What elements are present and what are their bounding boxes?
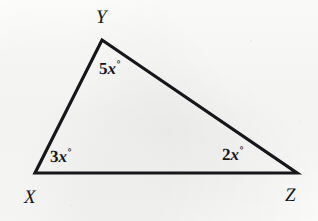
triangle-drawing: [0, 0, 318, 221]
degree-symbol-icon: °: [117, 59, 121, 70]
scan-speck: [250, 40, 252, 42]
vertex-label-z: Z: [285, 186, 296, 205]
geometry-figure: Y X Z 5x° 3x° 2x°: [0, 0, 318, 221]
angle-y-variable: x: [108, 59, 117, 78]
scan-speck: [160, 196, 161, 197]
degree-symbol-icon: °: [68, 147, 72, 158]
angle-z-coefficient: 2: [222, 145, 231, 164]
degree-symbol-icon: °: [240, 145, 244, 156]
scan-speck: [12, 60, 13, 61]
scan-speck: [70, 205, 72, 206]
angle-z-variable: x: [231, 145, 240, 164]
angle-label-z: 2x°: [222, 146, 244, 163]
angle-y-coefficient: 5: [99, 59, 108, 78]
angle-label-y: 5x°: [99, 60, 121, 77]
triangle-xyz-outline: [35, 40, 297, 173]
angle-x-variable: x: [59, 147, 68, 166]
angle-label-x: 3x°: [50, 148, 72, 165]
scan-speck: [300, 120, 301, 122]
vertex-label-y: Y: [96, 8, 107, 27]
angle-x-coefficient: 3: [50, 147, 59, 166]
vertex-label-x: X: [24, 188, 36, 207]
